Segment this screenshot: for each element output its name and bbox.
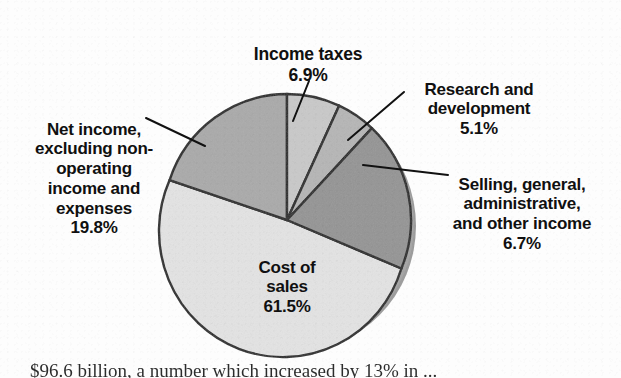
label-net-income: Net income, excluding non- operating inc…	[8, 100, 180, 258]
label-cost-of-sales-percent: 61.5%	[222, 297, 352, 317]
label-research-development-text: Research and development	[424, 80, 533, 119]
label-income-taxes: Income taxes 6.9%	[228, 24, 388, 105]
label-net-income-percent: 19.8%	[8, 218, 180, 238]
label-net-income-text: Net income, excluding non- operating inc…	[35, 120, 153, 218]
label-research-development: Research and development 5.1%	[399, 60, 559, 159]
page-body-text-cropped: $96.6 billion, a number which increased …	[30, 360, 600, 378]
label-income-taxes-text: Income taxes	[254, 44, 363, 64]
label-selling-general-text: Selling, general, administrative, and ot…	[453, 175, 592, 233]
label-selling-general-percent: 6.7%	[429, 234, 615, 254]
label-cost-of-sales: Cost of sales 61.5%	[222, 238, 352, 337]
chart-page: Income taxes 6.9% Research and developme…	[0, 0, 621, 378]
label-cost-of-sales-text: Cost of sales	[258, 258, 315, 297]
label-income-taxes-percent: 6.9%	[228, 65, 388, 85]
label-selling-general: Selling, general, administrative, and ot…	[429, 155, 615, 273]
label-research-development-percent: 5.1%	[399, 119, 559, 139]
